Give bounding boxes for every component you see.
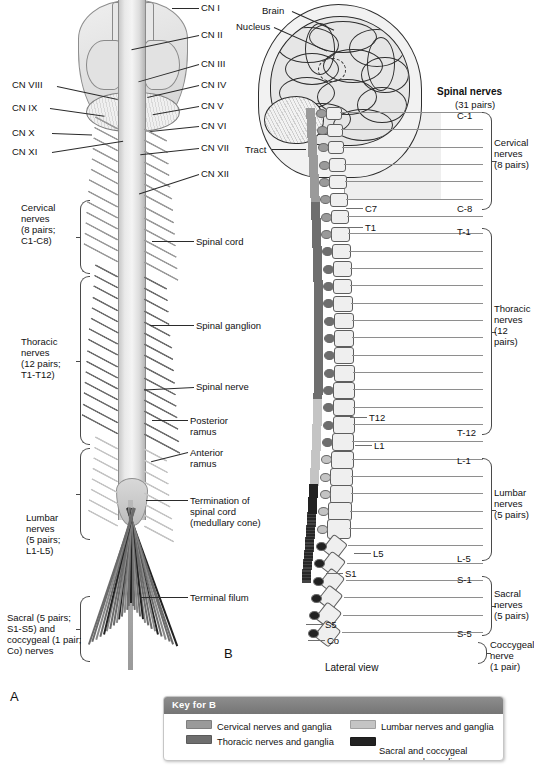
key-label-sacral-coccygeal: Sacral and coccygeal nerves and ganglia bbox=[350, 746, 467, 761]
label-cn-10: CN X bbox=[12, 127, 35, 138]
label-sacral-nerves-b: Sacral nerves (5 pairs) bbox=[494, 588, 529, 621]
brace-sacral-b bbox=[482, 576, 492, 636]
label-posterior-ramus: Posterior ramus bbox=[190, 415, 228, 437]
key-label-thoracic: Thoracic nerves and ganglia bbox=[217, 737, 334, 747]
brace-lumbar-a bbox=[80, 448, 90, 540]
label-nucleus: Nucleus bbox=[236, 21, 270, 32]
label-cn-11: CN XI bbox=[12, 146, 37, 157]
brace-lumbar-b bbox=[482, 458, 492, 561]
panel-b-letter: B bbox=[224, 646, 233, 661]
label-vertebra-c7: C7 bbox=[365, 203, 377, 214]
label-cn-12: CN XII bbox=[201, 168, 229, 179]
key-item-thoracic: Thoracic nerves and ganglia bbox=[186, 735, 334, 748]
key-item-sacral-coccygeal: Sacral and coccygeal nerves and ganglia bbox=[350, 735, 467, 761]
label-lumbar-nerves-a: Lumbar nerves (5 pairs; L1-L5) bbox=[26, 512, 60, 556]
label-spinal-cord: Spinal cord bbox=[196, 236, 244, 247]
label-level-t12: T-12 bbox=[457, 427, 476, 438]
brace-coccygeal-b bbox=[478, 642, 487, 664]
key-for-b-box: Key for B Cervical nerves and ganglia Th… bbox=[163, 696, 504, 761]
label-cn-4: CN IV bbox=[201, 79, 226, 90]
brace-cervical-a bbox=[80, 200, 90, 274]
spinal-cord-artwork bbox=[118, 0, 146, 520]
label-vertebra-co: Co bbox=[327, 635, 339, 646]
label-cn-3: CN III bbox=[201, 58, 225, 69]
key-swatch-thoracic bbox=[186, 735, 212, 744]
label-level-t1: T-1 bbox=[457, 226, 471, 237]
key-swatch-cervical bbox=[186, 720, 212, 729]
panel-b-view-label: Lateral view bbox=[325, 662, 378, 673]
label-vertebra-s1: S1 bbox=[345, 568, 357, 579]
label-cn-7: CN VII bbox=[201, 142, 229, 153]
label-vertebra-t12: T12 bbox=[369, 412, 385, 423]
brace-sacral-a bbox=[80, 596, 90, 662]
label-cervical-nerves-b: Cervical nerves (8 pairs) bbox=[494, 137, 529, 170]
label-level-c1: C-1 bbox=[457, 110, 472, 121]
label-coccygeal-nerve-b: Coccygeal nerve (1 pair) bbox=[490, 639, 534, 672]
key-item-cervical: Cervical nerves and ganglia bbox=[186, 720, 332, 733]
brace-cervical-b bbox=[482, 112, 492, 210]
label-cn-8: CN VIII bbox=[12, 79, 43, 90]
label-vertebra-s5: S5 bbox=[325, 619, 337, 630]
label-thoracic-nerves-a: Thoracic nerves (12 pairs; T1-T12) bbox=[21, 336, 61, 380]
label-thoracic-nerves-b: Thoracic nerves (12 pairs) bbox=[494, 303, 532, 347]
label-lumbar-nerves-b: Lumbar nerves (5 pairs) bbox=[494, 487, 529, 520]
label-level-s1: S-1 bbox=[457, 574, 472, 585]
label-cn-6: CN VI bbox=[201, 120, 226, 131]
heading-spinal-nerves: Spinal nerves bbox=[437, 86, 502, 97]
brace-thoracic-a bbox=[80, 276, 90, 445]
key-swatch-sacral-coccygeal bbox=[350, 737, 376, 746]
label-tract: Tract bbox=[245, 144, 266, 155]
label-level-s5: S-5 bbox=[457, 628, 472, 639]
label-terminal-filum: Terminal filum bbox=[190, 592, 249, 603]
key-label-cervical: Cervical nerves and ganglia bbox=[217, 722, 332, 732]
label-vertebra-l5: L5 bbox=[373, 548, 384, 559]
heading-spinal-nerves-sub: (31 pairs) bbox=[455, 99, 495, 110]
label-spinal-nerve: Spinal nerve bbox=[196, 381, 249, 392]
label-cn-2: CN II bbox=[201, 29, 223, 40]
panel-b-lateral-view-illustration bbox=[248, 0, 448, 660]
brace-thoracic-b bbox=[482, 228, 492, 435]
label-cervical-nerves-a: Cervical nerves (8 pairs; C1-C8) bbox=[21, 202, 55, 246]
label-level-c8: C-8 bbox=[457, 203, 472, 214]
label-vertebra-l1: L1 bbox=[374, 440, 385, 451]
key-item-lumbar: Lumbar nerves and ganglia bbox=[350, 720, 494, 733]
label-level-l5: L-5 bbox=[457, 553, 471, 564]
label-cn-5: CN V bbox=[201, 100, 224, 111]
nucleus-artwork bbox=[318, 58, 346, 82]
label-level-l1: L-1 bbox=[457, 455, 471, 466]
key-label-lumbar: Lumbar nerves and ganglia bbox=[381, 722, 494, 732]
panel-a-letter: A bbox=[10, 689, 19, 704]
label-brain: Brain bbox=[262, 5, 284, 16]
label-vertebra-t1: T1 bbox=[365, 222, 376, 233]
label-anterior-ramus: Anterior ramus bbox=[190, 447, 223, 469]
key-swatch-lumbar bbox=[350, 720, 376, 729]
key-title: Key for B bbox=[164, 697, 503, 714]
label-sacral-coccygeal-nerves-a: Sacral (5 pairs; S1-S5) and coccygeal (1… bbox=[7, 612, 81, 656]
label-cn-1: CN I bbox=[201, 2, 220, 13]
label-cn-9: CN IX bbox=[12, 102, 37, 113]
